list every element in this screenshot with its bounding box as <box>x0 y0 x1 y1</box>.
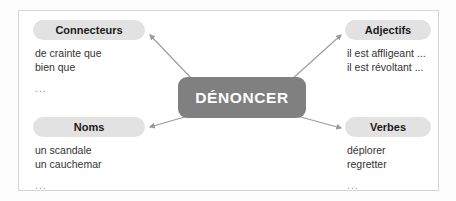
list-item: bien que <box>35 61 145 75</box>
branch-label-adjectifs: Adjectifs <box>365 25 411 36</box>
branch-label-pill-adjectifs[interactable]: Adjectifs <box>345 20 431 40</box>
list-item: un scandale <box>35 144 145 158</box>
list-item-ellipsis: ... <box>35 82 145 96</box>
arrow-to-verbes <box>297 116 341 128</box>
list-item: de crainte que <box>35 47 145 61</box>
center-node-label: DÉNONCER <box>195 90 289 106</box>
center-node[interactable]: DÉNONCER <box>178 77 306 118</box>
diagram-canvas: DÉNONCER Connecteurs de crainte que bien… <box>0 0 456 201</box>
list-item: il est révoltant ... <box>347 61 431 75</box>
branch-items-verbes: déplorer regretter ... <box>345 144 431 193</box>
branch-items-adjectifs: il est affligeant ... il est révoltant .… <box>345 47 431 74</box>
branch-adjectifs[interactable]: Adjectifs il est affligeant ... il est r… <box>345 20 431 74</box>
list-item: déplorer <box>347 144 431 158</box>
list-item: un cauchemar <box>35 158 145 172</box>
list-item: il est affligeant ... <box>347 47 431 61</box>
branch-items-noms: un scandale un cauchemar ... <box>33 144 145 193</box>
branch-items-connecteurs: de crainte que bien que ... <box>33 47 145 96</box>
branch-label-verbes: Verbes <box>370 122 406 133</box>
branch-label-noms: Noms <box>74 122 105 133</box>
list-item-ellipsis: ... <box>347 179 431 193</box>
list-item-ellipsis: ... <box>35 179 145 193</box>
branch-label-pill-verbes[interactable]: Verbes <box>345 117 431 137</box>
list-item: regretter <box>347 158 431 172</box>
arrow-to-adjectifs <box>292 35 341 79</box>
branch-noms[interactable]: Noms un scandale un cauchemar ... <box>33 117 145 193</box>
branch-label-connecteurs: Connecteurs <box>55 25 122 36</box>
branch-label-pill-noms[interactable]: Noms <box>33 117 145 137</box>
branch-label-pill-connecteurs[interactable]: Connecteurs <box>33 20 145 40</box>
arrow-to-connecteurs <box>150 35 192 79</box>
branch-verbes[interactable]: Verbes déplorer regretter ... <box>345 117 431 193</box>
branch-connecteurs[interactable]: Connecteurs de crainte que bien que ... <box>33 20 145 96</box>
arrow-to-noms <box>150 116 188 127</box>
